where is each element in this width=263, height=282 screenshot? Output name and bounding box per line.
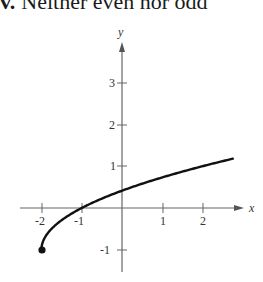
- function-curve: [41, 159, 232, 250]
- x-tick-label: 2: [200, 214, 206, 228]
- y-tick-label: 2: [109, 118, 115, 132]
- y-tick-label: 1: [110, 159, 116, 173]
- y-ticks: 3 2 1 -1: [100, 76, 127, 257]
- function-graph: x y -2 -1 1 2 3 2 1 -1: [0, 0, 263, 282]
- x-tick-label: -1: [74, 214, 84, 228]
- y-axis-label: y: [117, 25, 124, 39]
- y-tick-label: 3: [109, 76, 115, 90]
- x-axis-label: x: [248, 201, 255, 215]
- x-ticks: -2 -1 1 2: [35, 203, 206, 228]
- x-tick-label: 1: [160, 214, 166, 228]
- x-tick-label: -2: [35, 214, 45, 228]
- closed-endpoint-dot: [38, 246, 45, 253]
- y-axis-arrow-icon: [119, 42, 125, 52]
- y-tick-label: -1: [100, 243, 110, 257]
- x-axis-arrow-icon: [234, 205, 244, 211]
